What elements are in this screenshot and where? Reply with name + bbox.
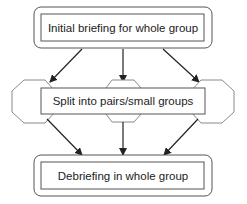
flowchart: Initial briefing for whole group Split i… xyxy=(0,0,247,204)
node-debriefing: Debriefing in whole group xyxy=(34,155,212,196)
arrow-right-to-bottom xyxy=(164,119,198,155)
arrow-top-to-right xyxy=(163,49,199,82)
node-label: Debriefing in whole group xyxy=(58,170,188,182)
node-label: Initial briefing for whole group xyxy=(48,22,198,34)
node-split-groups: Split into pairs/small groups xyxy=(41,88,205,114)
node-initial-briefing: Initial briefing for whole group xyxy=(34,7,212,48)
arrow-left-to-bottom xyxy=(47,119,82,155)
arrow-top-to-left xyxy=(50,49,82,82)
node-label: Split into pairs/small groups xyxy=(53,95,194,107)
